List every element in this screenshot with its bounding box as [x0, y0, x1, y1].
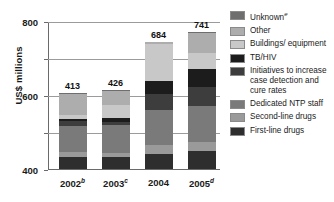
chart-legend: UnknowneOtherBuildings/ equipmentTB/HIVI… — [230, 10, 334, 139]
legend-item[interactable]: Second-line drugs — [230, 112, 334, 122]
bar-segment[interactable] — [145, 94, 173, 110]
x-axis-tick-label: 2004 — [148, 177, 169, 188]
bar-group[interactable]: 6842004 — [145, 42, 173, 169]
legend-color-swatch — [230, 11, 245, 20]
bar-segment[interactable] — [59, 94, 87, 115]
legend-color-swatch — [230, 40, 245, 49]
legend-item-label: First-line drugs — [250, 126, 304, 136]
bar-segment[interactable] — [59, 126, 87, 152]
bar-stack[interactable] — [188, 32, 216, 169]
bar-segment[interactable] — [145, 145, 173, 154]
bar-segment[interactable] — [102, 105, 130, 119]
legend-color-swatch — [230, 67, 245, 76]
bar-total-label: 426 — [108, 78, 123, 88]
legend-item-label: Initiatives to increase case detection a… — [250, 66, 334, 95]
x-axis-line — [48, 169, 220, 170]
bar-segment[interactable] — [188, 151, 216, 169]
legend-item-label: Second-line drugs — [250, 112, 316, 122]
legend-item[interactable]: Other — [230, 26, 334, 36]
y-axis-title: US$ millions — [13, 36, 24, 116]
x-axis-tick-label: 2005d — [189, 177, 214, 189]
x-axis-tick-label: 2002b — [60, 177, 85, 189]
bar-total-label: 413 — [65, 81, 80, 91]
legend-color-swatch — [230, 113, 245, 122]
bar-stack[interactable] — [59, 93, 87, 169]
bar-segment[interactable] — [145, 110, 173, 145]
bar-segment[interactable] — [188, 33, 216, 52]
y-axis-tick-label: 600 — [22, 91, 38, 102]
bar-segment[interactable] — [188, 53, 216, 69]
bar-total-label: 684 — [151, 30, 166, 40]
bar-segment[interactable] — [145, 44, 173, 81]
legend-item[interactable]: TB/HIV — [230, 53, 334, 63]
legend-color-swatch — [230, 127, 245, 136]
y-axis-tick: 800 — [44, 22, 48, 23]
legend-item[interactable]: Buildings/ equipment — [230, 39, 334, 49]
stacked-bar-chart: US$ millions 0200400600800 4132002b42620… — [0, 0, 334, 202]
legend-item-label: Unknowne — [250, 10, 287, 22]
y-axis-tick-label: 800 — [22, 17, 38, 28]
bar-segment[interactable] — [188, 106, 216, 142]
y-axis-tick: 0 — [44, 170, 48, 171]
y-axis-tick: 400 — [44, 96, 48, 97]
x-axis-tick-label: 2003c — [103, 177, 128, 189]
legend-item[interactable]: Dedicated NTP staff — [230, 99, 334, 109]
bar-group[interactable]: 7412005d — [188, 32, 216, 169]
y-axis-tick: 200 — [44, 133, 48, 134]
bar-stack[interactable] — [145, 42, 173, 169]
legend-color-swatch — [230, 100, 245, 109]
bar-segment[interactable] — [188, 142, 216, 151]
bar-segment[interactable] — [188, 69, 216, 87]
bar-total-label: 741 — [194, 20, 209, 30]
legend-item-label: Other — [250, 26, 270, 36]
y-axis-tick-label: 400 — [22, 165, 38, 176]
bar-segment[interactable] — [59, 157, 87, 169]
bar-group[interactable]: 4262003c — [102, 90, 130, 169]
bar-stack[interactable] — [102, 90, 130, 169]
bar-segment[interactable] — [145, 154, 173, 169]
legend-item-label: Buildings/ equipment — [250, 39, 326, 49]
legend-item-label: TB/HIV — [250, 53, 276, 63]
legend-color-swatch — [230, 54, 245, 63]
legend-item[interactable]: Initiatives to increase case detection a… — [230, 66, 334, 95]
legend-item-label: Dedicated NTP staff — [250, 99, 323, 109]
plot-area: 0200400600800 4132002b4262003c6842004741… — [48, 22, 220, 170]
legend-color-swatch — [230, 27, 245, 36]
bar-segment[interactable] — [102, 125, 130, 154]
bar-group[interactable]: 4132002b — [59, 93, 87, 169]
legend-item[interactable]: First-line drugs — [230, 126, 334, 136]
bar-segment[interactable] — [102, 91, 130, 105]
bar-segment[interactable] — [145, 81, 173, 95]
bar-segment[interactable] — [102, 157, 130, 169]
bar-segment[interactable] — [188, 87, 216, 106]
legend-item[interactable]: Unknowne — [230, 10, 334, 22]
y-axis-tick: 600 — [44, 59, 48, 60]
